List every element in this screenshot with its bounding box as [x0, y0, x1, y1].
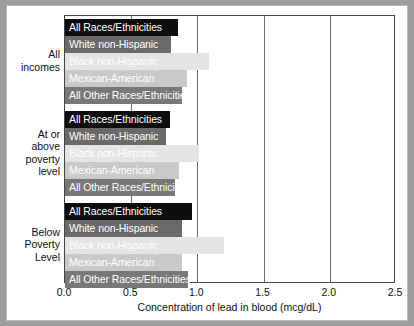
- group-caption-line: incomes: [4, 61, 60, 74]
- bar-group-1: All Races/EthnicitiesWhite non-HispanicB…: [65, 19, 394, 104]
- y-axis-group-captions: AllincomesAt orabovepovertylevelBelowPov…: [7, 15, 60, 283]
- x-tick-label-2.0: 2.0: [321, 286, 336, 298]
- figure-panel: AllincomesAt orabovepovertylevelBelowPov…: [6, 5, 408, 321]
- group-caption-3: BelowPovertyLevel: [4, 226, 60, 264]
- bar-group-3: All Races/EthnicitiesWhite non-HispanicB…: [65, 203, 394, 288]
- plot-area: All Races/EthnicitiesWhite non-HispanicB…: [64, 15, 395, 283]
- x-tick-label-1.0: 1.0: [189, 286, 204, 298]
- bar-label: White non-Hispanic: [69, 128, 158, 145]
- bar-row[interactable]: White non-Hispanic: [65, 128, 394, 145]
- group-caption-2: At orabovepovertylevel: [4, 128, 60, 178]
- bar-label: All Other Races/Ethnicities: [69, 87, 191, 104]
- group-caption-line: poverty: [4, 153, 60, 166]
- x-axis-tick-labels: 0.00.51.01.52.02.5: [64, 286, 395, 300]
- bar-row[interactable]: Black non-Hispanic: [65, 53, 394, 70]
- bar-row[interactable]: White non-Hispanic: [65, 36, 394, 53]
- group-caption-line: At or: [4, 128, 60, 141]
- x-tick-label-2.5: 2.5: [388, 286, 403, 298]
- bar-label: Black non-Hispanic: [69, 237, 157, 254]
- bar-label: Mexican-American: [69, 162, 154, 179]
- group-caption-line: Poverty: [4, 238, 60, 251]
- figure-outer-frame: AllincomesAt orabovepovertylevelBelowPov…: [0, 0, 414, 326]
- group-caption-line: above: [4, 140, 60, 153]
- bar-row[interactable]: Mexican-American: [65, 70, 394, 87]
- x-tick-label-0.5: 0.5: [123, 286, 138, 298]
- bar-label: Black non-Hispanic: [69, 145, 157, 162]
- bar-row[interactable]: Mexican-American: [65, 162, 394, 179]
- group-caption-line: Level: [4, 251, 60, 264]
- bar-row[interactable]: All Races/Ethnicities: [65, 19, 394, 36]
- bar-group-2: All Races/EthnicitiesWhite non-HispanicB…: [65, 111, 394, 196]
- bar-label: Mexican-American: [69, 70, 154, 87]
- bar-label: Black non-Hispanic: [69, 53, 157, 70]
- bar-label: White non-Hispanic: [69, 220, 158, 237]
- bar-row[interactable]: Black non-Hispanic: [65, 237, 394, 254]
- bar-row[interactable]: All Races/Ethnicities: [65, 203, 394, 220]
- bar-label: All Races/Ethnicities: [69, 203, 162, 220]
- bar-row[interactable]: Black non-Hispanic: [65, 145, 394, 162]
- group-caption-line: All: [4, 48, 60, 61]
- group-caption-1: Allincomes: [4, 48, 60, 73]
- bar-row[interactable]: All Other Races/Ethnicities: [65, 87, 394, 104]
- bar-row[interactable]: White non-Hispanic: [65, 220, 394, 237]
- bar-row[interactable]: All Other Races/Ethnicities: [65, 179, 394, 196]
- group-caption-line: Below: [4, 226, 60, 239]
- bar-row[interactable]: Mexican-American: [65, 254, 394, 271]
- x-tick-label-0.0: 0.0: [57, 286, 72, 298]
- x-axis-title: Concentration of lead in blood (mcg/dL): [64, 301, 395, 313]
- bar-row[interactable]: All Races/Ethnicities: [65, 111, 394, 128]
- bar-label: All Races/Ethnicities: [69, 19, 162, 36]
- group-caption-line: level: [4, 165, 60, 178]
- bar-label: White non-Hispanic: [69, 36, 158, 53]
- bar-label: Mexican-American: [69, 254, 154, 271]
- bar-label: All Races/Ethnicities: [69, 111, 162, 128]
- x-tick-label-1.5: 1.5: [255, 286, 270, 298]
- bar-label: All Other Races/Ethnicities: [69, 179, 191, 196]
